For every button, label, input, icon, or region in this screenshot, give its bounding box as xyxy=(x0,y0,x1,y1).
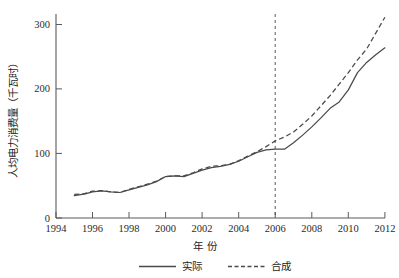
x-tick-label-2000: 2000 xyxy=(155,223,176,234)
x-axis-title: 年 份 xyxy=(193,240,217,252)
y-tick-marks xyxy=(56,25,62,219)
y-axis-title: 人均电力消费量（千瓦时） xyxy=(7,58,19,178)
y-tick-label-300: 300 xyxy=(34,19,50,30)
chart-figure: 人均电力消费量（千瓦时） 300 200 100 0 xyxy=(0,0,399,278)
x-tick-label-2006: 2006 xyxy=(265,223,286,234)
series-line-actual xyxy=(74,48,385,196)
series-line-synthetic xyxy=(74,17,385,194)
x-tick-label-2012: 2012 xyxy=(374,223,395,234)
x-tick-label-1998: 1998 xyxy=(119,223,140,234)
x-tick-marks xyxy=(56,212,385,218)
x-tick-label-2004: 2004 xyxy=(228,223,250,234)
line-chart-svg: 人均电力消费量（千瓦时） 300 200 100 0 xyxy=(0,0,399,278)
legend-label-actual: 实际 xyxy=(182,260,202,272)
chart-legend: 实际 合成 xyxy=(139,260,292,272)
x-tick-label-2010: 2010 xyxy=(338,223,359,234)
y-tick-label-100: 100 xyxy=(34,148,50,159)
legend-label-synthetic: 合成 xyxy=(271,260,292,272)
x-tick-label-2002: 2002 xyxy=(192,223,213,234)
x-tick-label-1996: 1996 xyxy=(82,223,103,234)
y-tick-label-200: 200 xyxy=(34,83,50,94)
x-tick-label-1994: 1994 xyxy=(46,223,68,234)
x-tick-label-2008: 2008 xyxy=(301,223,322,234)
